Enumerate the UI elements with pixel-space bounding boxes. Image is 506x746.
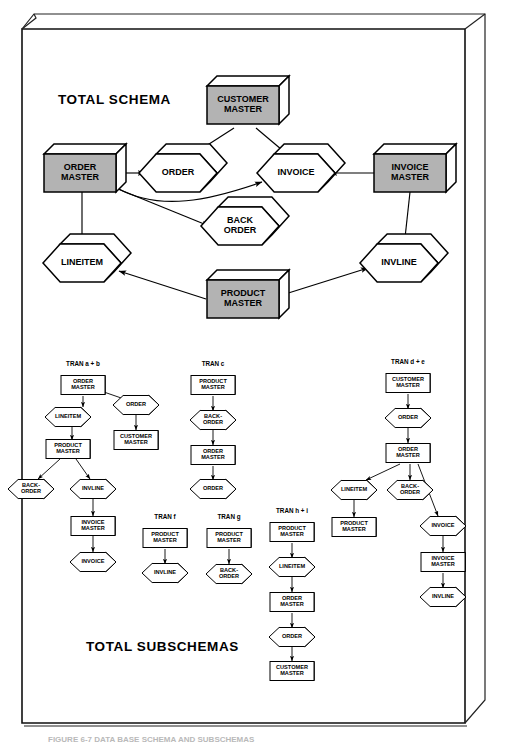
node-ab_order_master: ORDERMASTER [61, 376, 105, 395]
schema-diagram: TOTAL SCHEMA TOTAL SUBSCHEMAS CUSTOMERMA… [0, 0, 506, 746]
total-schema-title: TOTAL SCHEMA [58, 92, 171, 107]
node-label: ORDERMASTER [61, 162, 100, 183]
node-label: BACK-ORDER [203, 413, 223, 425]
node-label: CUSTOMERMASTER [276, 664, 308, 676]
node-label: LINEITEM [341, 486, 367, 492]
node-label: ORDER [126, 401, 146, 407]
node-hi_order_master: ORDERMASTER [270, 593, 314, 612]
tran-label-tran_c: TRAN c [202, 360, 225, 367]
node-de_customer_master: CUSTOMERMASTER [386, 374, 430, 393]
node-ab_product_master: PRODUCTMASTER [46, 440, 90, 459]
node-label: ORDERMASTER [280, 595, 304, 607]
node-order_master: ORDERMASTER [44, 144, 126, 192]
node-label: INVOICE [81, 558, 104, 564]
node-label: ORDER [398, 414, 418, 420]
node-label: ORDER [282, 633, 302, 639]
node-c_back_order: BACK-ORDER [190, 411, 236, 430]
node-product_master: PRODUCTMASTER [207, 270, 289, 318]
node-label: LINEITEM [61, 257, 103, 267]
node-de_order: ORDER [385, 409, 431, 428]
node-customer_master: CUSTOMERMASTER [207, 76, 289, 124]
node-hi_product_master: PRODUCTMASTER [270, 523, 314, 542]
tran-label-tran_ab: TRAN a + b [66, 360, 100, 367]
node-label: PRODUCTMASTER [151, 531, 179, 543]
node-ab_invline: INVLINE [70, 480, 116, 499]
tran-label-tran_g: TRAN g [217, 513, 240, 521]
node-ab_lineitem: LINEITEM [45, 408, 91, 427]
box-top-face [207, 76, 289, 86]
node-ab_invoice: INVOICE [70, 553, 116, 572]
node-label: INVLINE [381, 257, 417, 267]
tran-label-tran_f: TRAN f [154, 513, 176, 520]
node-hi_lineitem: LINEITEM [269, 558, 315, 577]
node-label: INVOICEMASTER [391, 162, 430, 183]
node-label: INVLINE [432, 593, 454, 599]
node-label: CUSTOMERMASTER [392, 376, 424, 388]
box-top-face [44, 144, 126, 154]
node-de_invoice_master: INVOICEMASTER [421, 553, 465, 572]
total-subschemas-title: TOTAL SUBSCHEMAS [86, 639, 239, 654]
node-label: BACK-ORDER [219, 567, 239, 579]
node-hi_customer_master: CUSTOMERMASTER [270, 662, 314, 681]
node-hi_order: ORDER [269, 628, 315, 647]
node-de_lineitem: LINEITEM [331, 481, 377, 500]
node-label: ORDERMASTER [71, 378, 95, 390]
node-label: PRODUCTMASTER [199, 378, 227, 390]
node-c_product_master: PRODUCTMASTER [191, 376, 235, 395]
node-label: INVLINE [82, 485, 104, 491]
node-label: LINEITEM [279, 563, 305, 569]
node-g_back_order: BACK-ORDER [206, 565, 252, 584]
node-c_order: ORDER [190, 480, 236, 499]
node-de_back_order: BACK-ORDER [387, 481, 433, 500]
node-invoice_master: INVOICEMASTER [374, 144, 456, 192]
node-label: BACK-ORDER [400, 483, 420, 495]
node-de_invline: INVLINE [420, 588, 466, 607]
node-label: PRODUCTMASTER [340, 520, 368, 532]
node-label: LINEITEM [55, 413, 81, 419]
node-de_product_master: PRODUCTMASTER [332, 518, 376, 537]
node-label: ORDERMASTER [396, 446, 420, 458]
node-label: ORDER [203, 485, 223, 491]
node-ab_invoice_master: INVOICEMASTER [71, 517, 115, 536]
node-f_product_master: PRODUCTMASTER [143, 529, 187, 548]
node-label: INVLINE [154, 569, 176, 575]
node-ab_order: ORDER [113, 396, 159, 415]
node-ab_customer_master: CUSTOMERMASTER [114, 431, 158, 450]
node-label: PRODUCTMASTER [221, 288, 266, 309]
node-de_invoice: INVOICE [420, 517, 466, 536]
box-top-face [207, 270, 289, 280]
node-label: CUSTOMERMASTER [120, 433, 152, 445]
node-c_order_master: ORDERMASTER [191, 446, 235, 465]
tran-label-tran_de: TRAN d + e [391, 358, 425, 365]
node-label: BACK-ORDER [21, 482, 41, 494]
box-top-face [374, 144, 456, 154]
node-label: INVOICEMASTER [431, 555, 455, 567]
node-label: ORDER [162, 167, 195, 177]
figure-caption: FIGURE 6-7 DATA BASE SCHEMA AND SUBSCHEM… [48, 735, 255, 744]
node-f_invline: INVLINE [142, 564, 188, 583]
node-label: PRODUCTMASTER [215, 531, 243, 543]
node-label: CUSTOMERMASTER [217, 94, 269, 115]
node-label: PRODUCTMASTER [278, 525, 306, 537]
node-g_product_master: PRODUCTMASTER [207, 529, 251, 548]
node-label: BACKORDER [224, 215, 257, 236]
node-label: INVOICEMASTER [81, 519, 105, 531]
node-label: INVOICE [431, 522, 454, 528]
node-label: INVOICE [277, 167, 314, 177]
node-label: ORDERMASTER [201, 448, 225, 460]
node-label: PRODUCTMASTER [54, 442, 82, 454]
node-ab_back_order: BACK-ORDER [8, 480, 54, 499]
node-de_order_master: ORDERMASTER [386, 444, 430, 463]
figure-canvas: TOTAL SCHEMA TOTAL SUBSCHEMAS CUSTOMERMA… [0, 0, 506, 746]
tran-label-tran_hi: TRAN h + i [276, 507, 308, 514]
